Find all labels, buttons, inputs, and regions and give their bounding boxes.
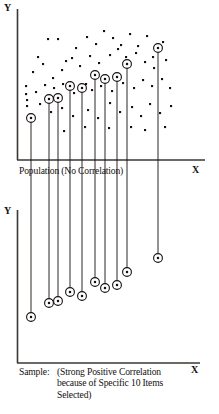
selected-dot [30, 117, 33, 120]
selected-dot [48, 302, 51, 305]
population-dot [25, 93, 27, 95]
sample-panel [17, 210, 200, 363]
population-dot [164, 126, 166, 128]
sample-y-axis-label: Y [4, 205, 11, 216]
population-selected-point [66, 82, 75, 91]
selected-dot [81, 87, 84, 90]
population-dot [26, 99, 28, 101]
population-dot [62, 83, 64, 85]
population-dot [117, 48, 119, 50]
population-dot [149, 103, 151, 105]
population-dot [37, 56, 39, 58]
selected-dot [104, 287, 107, 290]
population-dot [52, 77, 54, 79]
selected-dot [30, 316, 33, 319]
sample-selected-point [154, 254, 163, 263]
population-selected-point [27, 114, 36, 123]
population-dot [53, 87, 55, 89]
population-dot [71, 57, 73, 59]
population-dot [86, 36, 88, 38]
population-dot [109, 54, 111, 56]
population-dot [130, 126, 132, 128]
population-selected-point [113, 73, 122, 82]
sample-selected-point [27, 313, 36, 322]
sample-caption-body: (Strong Positive Correlation because of … [57, 366, 163, 400]
sample-selected-point [91, 278, 100, 287]
population-dot [131, 106, 133, 108]
population-selected-point [91, 71, 100, 80]
population-dot [129, 33, 131, 35]
population-dot [97, 117, 99, 119]
population-dot [153, 67, 155, 69]
population-dot [151, 85, 153, 87]
population-selected-point [101, 75, 110, 84]
population-dot [47, 38, 49, 40]
sample-selected-point [54, 297, 63, 306]
population-dot [100, 85, 102, 87]
population-dot [98, 62, 100, 64]
population-dot [122, 82, 124, 84]
selected-dot [116, 76, 119, 79]
population-point-cloud [25, 30, 172, 132]
population-dot [35, 91, 37, 93]
population-dot [119, 111, 121, 113]
selected-dot [48, 98, 51, 101]
population-dot [72, 115, 74, 117]
selected-dot [116, 284, 119, 287]
population-dot [111, 90, 113, 92]
population-dot [169, 87, 171, 89]
sample-selected-points [27, 254, 163, 322]
sample-selected-point [101, 284, 110, 293]
sample-x-axis-label: X [191, 364, 198, 375]
population-x-axis-label: X [192, 164, 199, 175]
selected-dot [126, 63, 129, 66]
population-dot [170, 105, 172, 107]
population-dot [79, 65, 81, 67]
population-dot [146, 35, 148, 37]
population-dot [84, 126, 86, 128]
population-dot [108, 127, 110, 129]
population-dot [25, 85, 27, 87]
population-dot [159, 112, 161, 114]
population-dot [61, 107, 63, 109]
selected-dot [94, 74, 97, 77]
selected-dot [157, 257, 160, 260]
population-dot [57, 38, 59, 40]
population-dot [133, 87, 135, 89]
selected-dot [57, 300, 60, 303]
population-dot [142, 79, 144, 81]
sample-caption-label: Sample: [19, 366, 49, 377]
population-caption: Population (No Correlation) [19, 165, 123, 176]
population-selected-point [54, 94, 63, 103]
population-selected-point [123, 60, 132, 69]
population-dot [32, 71, 34, 73]
population-dot [112, 37, 114, 39]
selected-dot [81, 295, 84, 298]
population-dot [95, 43, 97, 45]
selected-dot [104, 78, 107, 81]
sample-selected-point [78, 292, 87, 301]
population-panel [17, 9, 205, 210]
selected-dot [69, 291, 72, 294]
population-dot [73, 92, 75, 94]
selected-dot [157, 47, 160, 50]
sample-selected-point [113, 281, 122, 290]
sample-selected-point [66, 288, 75, 297]
population-dot [144, 129, 146, 131]
two-panel-scatter-figure [0, 0, 219, 414]
population-dot [152, 56, 154, 58]
selected-dot [69, 85, 72, 88]
population-dot [44, 84, 46, 86]
population-dot [75, 47, 77, 49]
population-dot [109, 102, 111, 104]
population-dot [144, 61, 146, 63]
population-dot [26, 105, 28, 107]
population-selected-point [78, 84, 87, 93]
population-dot [65, 60, 67, 62]
population-dot [137, 45, 139, 47]
population-dot [161, 78, 163, 80]
selected-dot [57, 97, 60, 100]
population-dot [135, 52, 137, 54]
population-dot [91, 89, 93, 91]
population-dot [103, 30, 105, 32]
